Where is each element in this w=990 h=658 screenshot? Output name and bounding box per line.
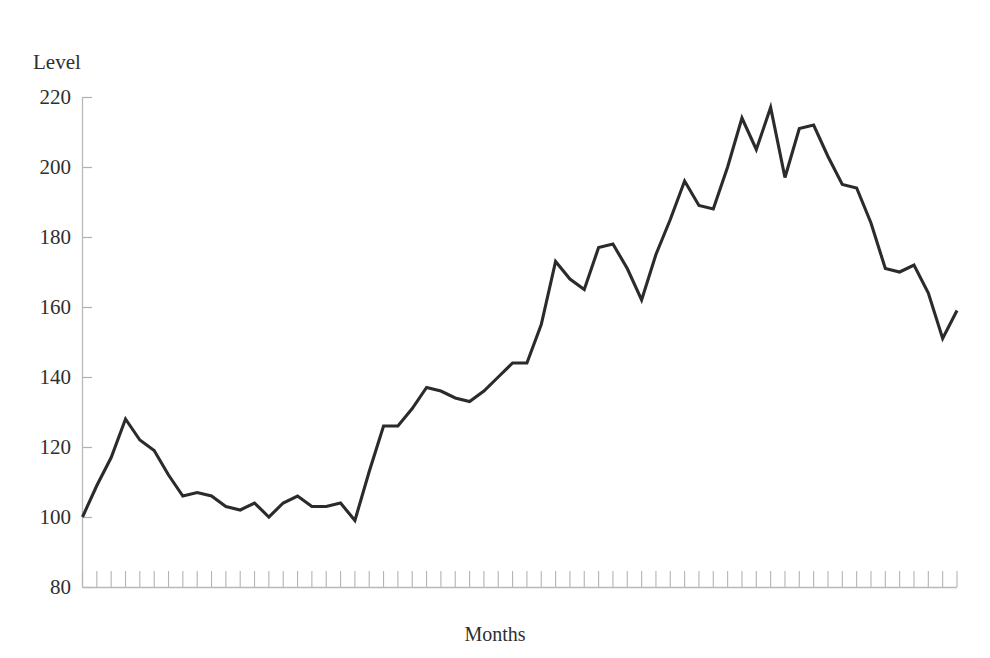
y-axis-tick-labels: 80100120140160180200220 <box>40 85 72 599</box>
chart-canvas: Level 80100120140160180200220 Months <box>0 0 990 658</box>
x-axis-tick-marks <box>83 571 958 587</box>
y-axis-tick-label: 220 <box>40 85 72 109</box>
y-axis-label: Level <box>33 50 81 74</box>
line-chart: Level 80100120140160180200220 Months <box>0 0 990 658</box>
y-axis-tick-label: 120 <box>40 435 72 459</box>
y-axis-tick-label: 180 <box>40 225 72 249</box>
y-axis-tick-label: 200 <box>40 155 72 179</box>
y-axis-tick-label: 100 <box>40 505 72 529</box>
data-series-line <box>83 108 958 521</box>
y-axis-tick-label: 140 <box>40 365 72 389</box>
y-axis-tick-label: 80 <box>50 575 71 599</box>
x-axis-label: Months <box>464 623 525 645</box>
y-axis-tick-label: 160 <box>40 295 72 319</box>
